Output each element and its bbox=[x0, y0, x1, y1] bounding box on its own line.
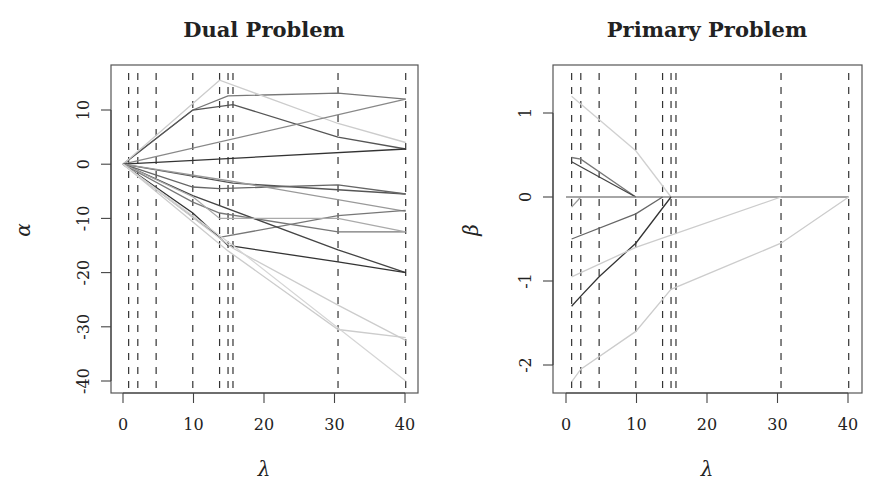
primary-y-tick-label: 1 bbox=[516, 108, 535, 118]
primary-beta-6-line bbox=[572, 197, 663, 239]
dual-y-tick-label: -10 bbox=[74, 206, 93, 232]
primary-beta-1-line bbox=[572, 96, 671, 197]
figure: Dual Problem 010203040 100-10-20-30-40 λ… bbox=[0, 0, 880, 491]
primary-x-axis-label: λ bbox=[700, 457, 714, 481]
primary-x-tick-label: 10 bbox=[626, 415, 646, 434]
dual-problem-panel: Dual Problem 010203040 100-10-20-30-40 λ… bbox=[11, 17, 418, 481]
primary-beta-5-line bbox=[572, 197, 581, 207]
dual-solution-paths bbox=[123, 80, 406, 381]
primary-x-tick-label: 40 bbox=[838, 415, 858, 434]
dual-path-5-line bbox=[123, 149, 406, 164]
dual-x-tick-label: 30 bbox=[324, 415, 344, 434]
primary-x-tick-label: 20 bbox=[697, 415, 717, 434]
primary-solution-paths bbox=[566, 96, 849, 382]
primary-y-axis: 10-1-2 bbox=[516, 108, 553, 373]
figure-canvas: Dual Problem 010203040 100-10-20-30-40 λ… bbox=[0, 0, 880, 491]
primary-x-tick-label: 0 bbox=[561, 415, 571, 434]
dual-path-10-line bbox=[123, 164, 406, 237]
primary-problem-title: Primary Problem bbox=[607, 17, 807, 42]
primary-y-axis-label: β bbox=[459, 224, 483, 237]
dual-path-6-line bbox=[123, 164, 406, 194]
dual-path-2-line bbox=[123, 105, 406, 165]
primary-breakpoint-lines bbox=[572, 73, 849, 393]
primary-y-tick-label: -2 bbox=[516, 357, 535, 373]
dual-x-tick-label: 10 bbox=[183, 415, 203, 434]
dual-breakpoint-lines bbox=[129, 73, 406, 393]
dual-y-tick-label: -20 bbox=[74, 260, 93, 286]
dual-path-1-line bbox=[123, 93, 406, 164]
dual-x-tick-label: 0 bbox=[118, 415, 128, 434]
dual-y-axis-label: α bbox=[11, 223, 35, 237]
dual-y-tick-label: 10 bbox=[74, 100, 93, 120]
dual-y-axis: 100-10-20-30-40 bbox=[74, 100, 111, 394]
primary-beta-9-line bbox=[572, 197, 849, 382]
primary-beta-8-line bbox=[572, 197, 781, 277]
dual-y-tick-label: 0 bbox=[74, 159, 93, 169]
dual-problem-title: Dual Problem bbox=[183, 17, 344, 42]
dual-x-axis-label: λ bbox=[257, 457, 271, 481]
primary-beta-7-line bbox=[572, 197, 671, 306]
dual-path-7-line bbox=[123, 164, 406, 194]
dual-x-tick-label: 20 bbox=[254, 415, 274, 434]
primary-problem-panel: Primary Problem 010203040 10-1-2 λ β bbox=[459, 17, 862, 481]
primary-y-tick-label: -1 bbox=[516, 273, 535, 289]
primary-x-axis: 010203040 bbox=[561, 393, 858, 434]
dual-y-tick-label: -30 bbox=[74, 314, 93, 340]
primary-x-tick-label: 30 bbox=[767, 415, 787, 434]
primary-y-tick-label: 0 bbox=[516, 192, 535, 202]
dual-path-14-line bbox=[123, 164, 406, 340]
dual-x-axis: 010203040 bbox=[118, 393, 415, 434]
dual-y-tick-label: -40 bbox=[74, 368, 93, 394]
dual-x-tick-label: 40 bbox=[395, 415, 415, 434]
